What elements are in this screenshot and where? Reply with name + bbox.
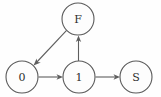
node-1-label: 1 bbox=[76, 71, 83, 84]
node-f[interactable]: F bbox=[62, 3, 94, 35]
graph-svg: F 0 1 S bbox=[0, 0, 161, 97]
edge-f-to-0 bbox=[34, 30, 67, 65]
node-0-label: 0 bbox=[19, 71, 26, 84]
node-f-label: F bbox=[74, 13, 82, 26]
node-1[interactable]: 1 bbox=[63, 61, 95, 93]
edge-0-to-1 bbox=[39, 74, 64, 79]
edge-f-to-0-line bbox=[36, 30, 67, 63]
edge-1-to-s bbox=[96, 74, 121, 79]
node-s-label: S bbox=[132, 71, 140, 84]
edge-1-to-f bbox=[76, 35, 81, 61]
node-s[interactable]: S bbox=[120, 61, 152, 93]
node-0[interactable]: 0 bbox=[6, 61, 38, 93]
diagram-canvas: F 0 1 S bbox=[0, 0, 161, 97]
